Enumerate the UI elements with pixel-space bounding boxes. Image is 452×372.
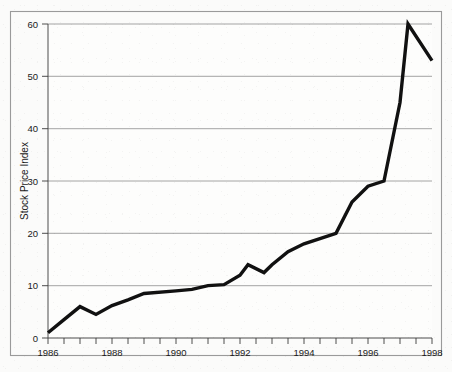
x-tick-label-1990: 1990 [165, 347, 186, 358]
stock-price-index-line-chart: 60 50 40 30 20 10 0 Stock Price Index [0, 0, 452, 372]
x-axis-minor-ticks [48, 338, 432, 344]
x-tick-label-1992: 1992 [229, 347, 250, 358]
x-tick-label-1998: 1998 [421, 347, 442, 358]
y-tick-label-50: 50 [27, 71, 38, 82]
y-tick-label-20: 20 [27, 228, 38, 239]
x-axis-tick-labels: 1986 1988 1990 1992 1994 1996 1998 [37, 347, 442, 358]
y-axis-ticks [42, 24, 48, 338]
y-axis-title: Stock Price Index [19, 142, 30, 220]
y-tick-label-10: 10 [27, 280, 38, 291]
x-tick-label-1994: 1994 [293, 347, 314, 358]
y-tick-label-60: 60 [27, 19, 38, 30]
x-tick-label-1988: 1988 [101, 347, 122, 358]
chart-figure: 60 50 40 30 20 10 0 Stock Price Index [0, 0, 452, 372]
x-tick-label-1996: 1996 [357, 347, 378, 358]
y-tick-label-40: 40 [27, 123, 38, 134]
x-tick-label-1986: 1986 [37, 347, 58, 358]
y-tick-label-0: 0 [33, 333, 38, 344]
